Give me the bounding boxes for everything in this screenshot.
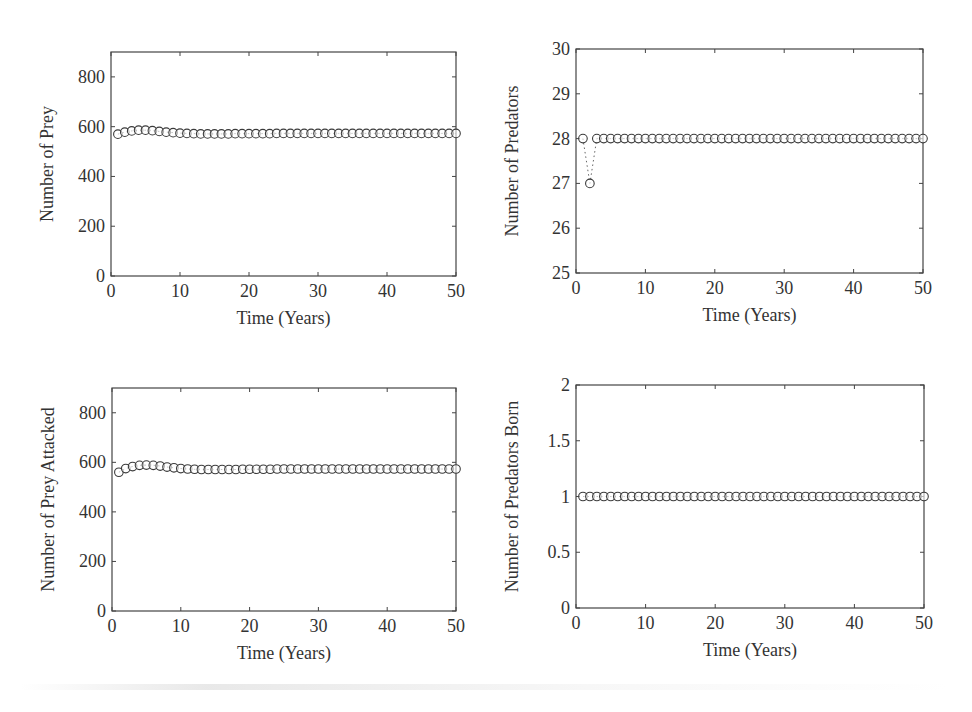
y-axis-label: Number of Predators Born	[502, 401, 522, 592]
x-tick-label: 10	[172, 616, 190, 636]
data-point-marker	[579, 134, 588, 143]
x-axis-label: Time (Years)	[237, 643, 331, 664]
y-tick-label: 1.5	[548, 431, 571, 451]
axes-box	[111, 52, 456, 276]
data-point-marker	[452, 129, 461, 138]
x-tick-label: 40	[845, 278, 863, 298]
y-tick-label: 1	[561, 487, 570, 507]
data-point-marker	[586, 179, 595, 188]
y-tick-label: 0	[97, 601, 106, 621]
x-tick-label: 40	[845, 613, 863, 633]
x-tick-label: 30	[309, 281, 327, 301]
data-point-marker	[452, 465, 461, 474]
y-tick-label: 0	[561, 598, 570, 618]
y-tick-label: 200	[78, 216, 105, 236]
x-tick-label: 30	[776, 613, 794, 633]
y-tick-label: 0	[96, 266, 105, 286]
axes-box	[112, 388, 456, 611]
x-tick-label: 50	[914, 278, 932, 298]
y-tick-label: 30	[552, 39, 570, 59]
y-axis-label: Number of Prey Attacked	[38, 407, 58, 591]
x-axis-label: Time (Years)	[702, 305, 796, 326]
x-tick-label: 0	[107, 281, 116, 301]
x-tick-label: 50	[915, 613, 933, 633]
y-tick-label: 200	[79, 551, 106, 571]
figure-canvas: 010203040500200400600800Time (Years)Numb…	[0, 0, 972, 712]
x-tick-label: 20	[706, 613, 724, 633]
data-point-marker	[920, 492, 929, 501]
y-tick-label: 27	[552, 173, 570, 193]
x-tick-label: 40	[378, 616, 396, 636]
scan-artifact	[20, 684, 950, 690]
y-tick-label: 600	[79, 452, 106, 472]
x-tick-label: 50	[447, 281, 465, 301]
y-tick-label: 800	[79, 403, 106, 423]
y-axis-label: Number of Predators	[502, 86, 522, 237]
x-axis-label: Time (Years)	[703, 640, 797, 661]
x-tick-label: 10	[636, 278, 654, 298]
y-tick-label: 2	[561, 375, 570, 395]
y-tick-label: 600	[78, 117, 105, 137]
y-tick-label: 400	[78, 166, 105, 186]
x-tick-label: 20	[706, 278, 724, 298]
data-point-marker	[919, 134, 928, 143]
figure: 010203040500200400600800Time (Years)Numb…	[0, 0, 972, 712]
series-line	[583, 139, 923, 184]
x-tick-label: 40	[378, 281, 396, 301]
x-tick-label: 10	[637, 613, 655, 633]
x-tick-label: 30	[309, 616, 327, 636]
x-tick-label: 0	[108, 616, 117, 636]
subplot-prey-attacked: 010203040500200400600800Time (Years)Numb…	[38, 388, 465, 664]
y-tick-label: 400	[79, 502, 106, 522]
axes-box	[576, 49, 923, 273]
y-tick-label: 0.5	[548, 542, 571, 562]
y-tick-label: 28	[552, 129, 570, 149]
x-tick-label: 0	[572, 278, 581, 298]
x-tick-label: 50	[447, 616, 465, 636]
x-tick-label: 30	[775, 278, 793, 298]
x-axis-label: Time (Years)	[236, 308, 330, 329]
subplot-predators-born: 0102030405000.511.52Time (Years)Number o…	[502, 375, 933, 661]
x-tick-label: 0	[572, 613, 581, 633]
y-tick-label: 800	[78, 67, 105, 87]
y-axis-label: Number of Prey	[37, 106, 57, 222]
subplot-predators: 01020304050252627282930Time (Years)Numbe…	[502, 39, 932, 326]
x-tick-label: 20	[241, 616, 259, 636]
x-tick-label: 10	[171, 281, 189, 301]
y-tick-label: 26	[552, 218, 570, 238]
subplot-prey: 010203040500200400600800Time (Years)Numb…	[37, 52, 465, 329]
y-tick-label: 25	[552, 263, 570, 283]
x-tick-label: 20	[240, 281, 258, 301]
y-tick-label: 29	[552, 84, 570, 104]
